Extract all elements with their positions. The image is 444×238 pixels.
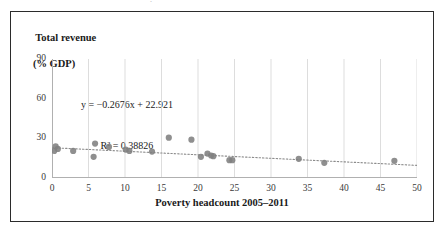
x-axis-title: Poverty headcount 2005–2011	[11, 197, 433, 208]
y-axis-title-line1: Total revenue	[35, 32, 96, 43]
x-axis-tick-label: 30	[259, 183, 283, 193]
x-axis-tick-label: 25	[223, 183, 247, 193]
scatter-point	[321, 160, 327, 166]
x-axis-tick-label: 20	[186, 183, 210, 193]
scatter-point	[92, 141, 98, 147]
plot-area	[52, 59, 417, 178]
chart-figure-frame: Total revenue (% GDP) y = −0.2676x + 22.…	[10, 11, 434, 222]
scatter-point	[106, 144, 112, 150]
x-axis-tick-label: 5	[77, 183, 101, 193]
scatter-point	[126, 148, 132, 154]
scatter-point	[188, 137, 194, 143]
scatter-point	[55, 146, 61, 152]
scatter-plot-svg	[52, 59, 417, 178]
scatter-point	[149, 148, 155, 154]
x-axis-tick-label: 10	[113, 183, 137, 193]
x-axis-tick-label: 15	[150, 183, 174, 193]
scatter-point	[198, 154, 204, 160]
scatter-point	[391, 158, 397, 164]
x-axis-tick-label: 50	[405, 183, 429, 193]
scatter-point	[229, 157, 235, 163]
scatter-point	[296, 156, 302, 162]
x-axis-tick-label: 35	[296, 183, 320, 193]
scatter-point	[70, 148, 76, 154]
y-axis-tick-label: 60	[24, 93, 46, 103]
scatter-point	[210, 153, 216, 159]
x-axis-tick-label: 40	[332, 183, 356, 193]
x-axis-tick-label: 0	[40, 183, 64, 193]
vertical-gridlines	[89, 59, 418, 178]
scatter-point	[166, 135, 172, 141]
y-axis-tick-label: 0	[24, 172, 46, 182]
y-axis-tick-label: 30	[24, 132, 46, 142]
scatter-point	[91, 154, 97, 160]
x-axis-tick-label: 45	[369, 183, 393, 193]
page-top-artifact: ·	[146, 0, 156, 6]
y-axis-tick-label: 90	[24, 53, 46, 63]
